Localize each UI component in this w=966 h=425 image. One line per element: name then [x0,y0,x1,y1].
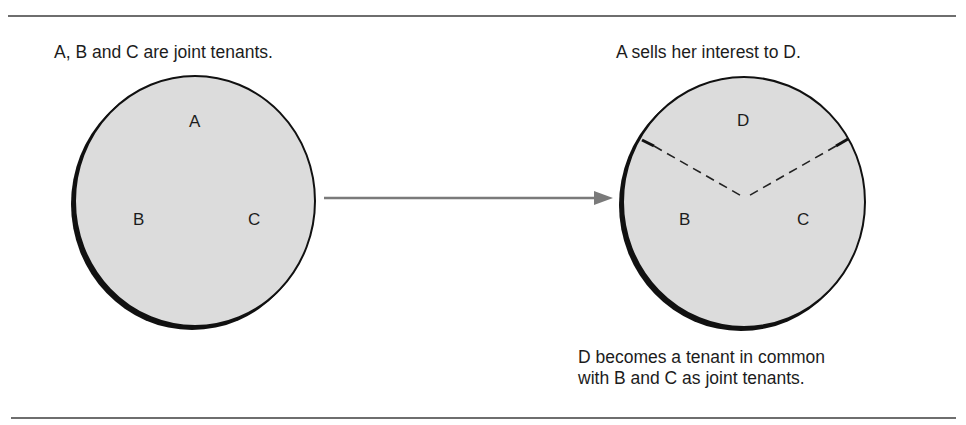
footnote-line-2: with B and C as joint tenants. [578,368,805,389]
right-label-d: D [737,111,749,130]
footnote-line-1: D becomes a tenant in common [578,347,825,368]
left-label-c: C [248,210,260,229]
left-label-b: B [133,210,144,229]
left-label-a: A [189,112,201,131]
right-label-b: B [679,210,690,229]
right-label-c: C [797,210,809,229]
transition-arrow [324,191,613,205]
